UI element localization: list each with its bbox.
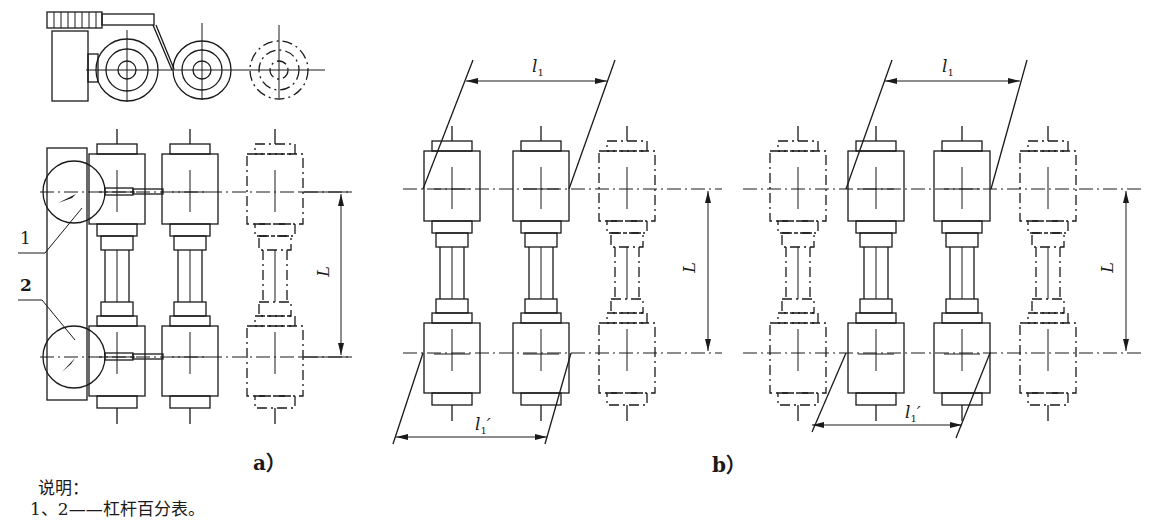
dimension-l1-prime-bottom-right: l1′: [905, 402, 921, 422]
dimension-l1-prime-bottom-left: l1′: [475, 414, 491, 434]
caption-a: a）: [253, 447, 286, 476]
callout-1: 1: [20, 228, 31, 248]
dimension-L-a: L: [314, 266, 333, 277]
dimension-l1-top-left: l1: [532, 56, 544, 76]
panel-b-right-view: [743, 60, 1143, 438]
notes-line-1: 1、2——杠杆百分表。: [30, 495, 205, 520]
dimension-L-b-right: L: [1098, 262, 1117, 273]
callout-2: 2: [20, 275, 32, 295]
panel-b-left-view: [393, 60, 722, 444]
dimension-L-b-left: L: [680, 262, 699, 273]
roll-alignment-diagram: [0, 0, 1151, 526]
caption-b: b）: [712, 449, 746, 478]
top-view-sketch: [47, 12, 325, 102]
panel-a-front-view: [18, 129, 352, 424]
dimension-l1-top-right: l1: [942, 56, 954, 76]
